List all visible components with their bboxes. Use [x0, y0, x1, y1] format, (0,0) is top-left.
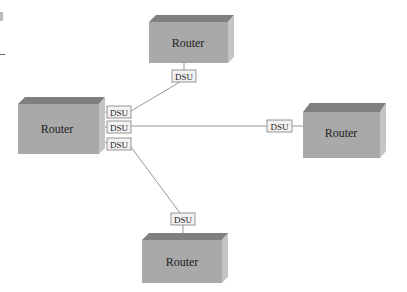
dsu-right-label: DSU	[270, 122, 289, 132]
router-bottom-label: Router	[166, 255, 199, 269]
dsu-bottom-label: DSU	[174, 215, 193, 225]
dsu-left-3[interactable]: DSU	[107, 138, 131, 150]
router-right-label: Router	[325, 126, 358, 140]
dsu-right[interactable]: DSU	[267, 120, 292, 132]
router-right[interactable]: Router	[303, 103, 386, 158]
dsu-left-2-label: DSU	[110, 123, 129, 133]
router-top[interactable]: Router	[149, 15, 234, 63]
router-bottom-side-face	[222, 233, 228, 283]
router-bottom-top-face	[142, 233, 228, 240]
dsu-top[interactable]: DSU	[172, 70, 196, 82]
router-top-label: Router	[172, 36, 205, 50]
router-right-top-face	[303, 103, 386, 112]
link-left-top	[131, 82, 180, 111]
router-left-label: Router	[41, 122, 74, 136]
router-right-side-face	[380, 103, 386, 158]
dsu-left-1-label: DSU	[110, 108, 129, 118]
dsu-left-2[interactable]: DSU	[107, 121, 131, 133]
router-left[interactable]: Router	[18, 97, 105, 154]
dsu-left-3-label: DSU	[110, 140, 129, 150]
router-top-side-face	[228, 15, 234, 63]
router-top-top-face	[149, 15, 234, 22]
router-left-side-face	[99, 97, 105, 154]
router-bottom[interactable]: Router	[142, 233, 228, 283]
network-diagram: Router Router Router Router DSU DSU DSU …	[0, 0, 407, 292]
dsu-bottom[interactable]: DSU	[171, 213, 195, 225]
link-left-bottom	[131, 147, 180, 213]
dsu-left-1[interactable]: DSU	[107, 106, 131, 118]
router-left-top-face	[18, 97, 105, 104]
dsu-top-label: DSU	[175, 72, 194, 82]
